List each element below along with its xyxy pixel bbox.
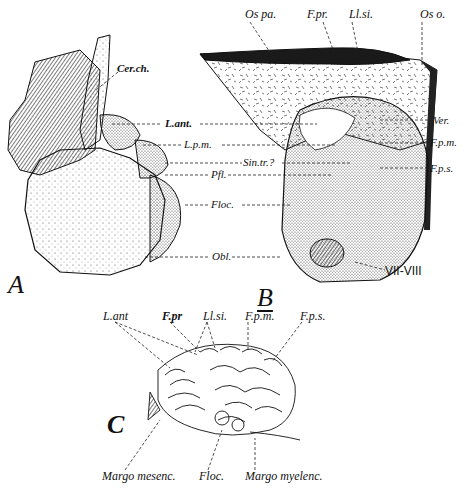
label-os-pa: Os pa. <box>245 8 276 20</box>
panel-b-specimen <box>200 48 437 282</box>
label-f-pr: F.pr. <box>307 8 328 20</box>
label-c-f-pr: F.pr <box>162 310 182 322</box>
label-os-o: Os o. <box>420 8 445 20</box>
label-l-ant: L.ant. <box>165 118 192 129</box>
label-margo-mesenc: Margo mesenc. <box>102 470 176 482</box>
label-pfl: Pfl. <box>211 169 227 180</box>
label-sin-tr: Sin.tr.? <box>243 157 274 168</box>
figure-drawing <box>0 0 467 493</box>
panel-label-c: C <box>107 412 124 438</box>
label-margo-myelenc: Margo myelenc. <box>245 470 323 482</box>
label-c-ll-si: Ll.si. <box>203 310 227 322</box>
label-vii-viii: VII-VIII <box>385 265 422 277</box>
label-c-f-pm: F.p.m. <box>245 310 274 322</box>
label-obl: Obl. <box>212 251 231 262</box>
label-f-pm: F.p.m. <box>430 137 457 148</box>
label-l-pm: L.p.m. <box>184 139 212 150</box>
label-ll-si: Ll.si. <box>349 8 373 20</box>
label-c-floc: Floc. <box>199 470 224 482</box>
label-f-ps: F.p.s. <box>430 163 453 174</box>
label-cer-ch: Cer.ch. <box>117 63 149 74</box>
label-floc: Floc. <box>211 199 234 210</box>
label-c-f-ps: F.p.s. <box>300 310 325 322</box>
panel-a-specimen <box>8 35 181 275</box>
panel-c-specimen <box>148 344 300 440</box>
panel-label-b: B <box>257 285 273 311</box>
label-c-l-ant: L.ant <box>103 310 128 322</box>
label-ver: Ver. <box>433 115 449 126</box>
panel-label-a: A <box>8 272 24 298</box>
